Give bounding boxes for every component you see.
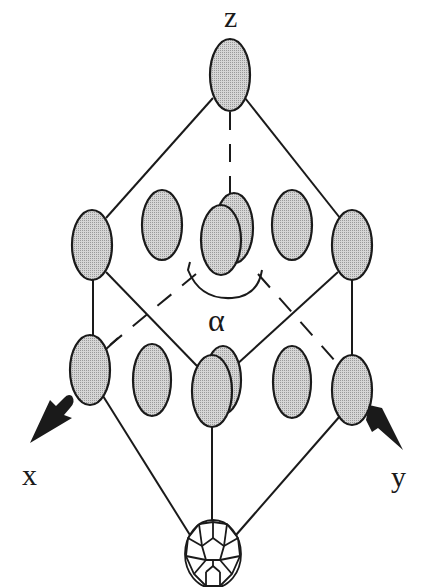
y-axis-arrow-icon — [366, 405, 403, 450]
hidden-edge-center-to-lower-left — [110, 274, 196, 345]
molecule-upper-left-vertex — [72, 210, 112, 280]
molecule-lower-mid-right — [273, 346, 311, 418]
molecule-lower-mid-left — [133, 344, 171, 416]
z-axis-label: z — [224, 2, 237, 32]
rhombohedral-lattice-diagram — [0, 0, 441, 587]
molecule-upper-mid-right — [272, 190, 312, 260]
x-axis-label: x — [22, 460, 37, 490]
molecule-lower-center-front — [192, 355, 232, 427]
c60-fullerene-icon — [185, 520, 241, 587]
y-axis-label: y — [391, 462, 406, 492]
angle-alpha-label: α — [208, 304, 225, 336]
edge-lower-right-to-c60 — [236, 416, 340, 535]
molecule-upper-center-front — [201, 205, 241, 275]
edge-lower-left-to-c60 — [103, 396, 190, 535]
molecules — [70, 39, 372, 427]
molecule-top-vertex — [210, 39, 250, 111]
molecule-upper-mid-left — [142, 190, 182, 260]
molecule-lower-right-vertex — [332, 355, 372, 425]
molecule-upper-right-vertex — [332, 210, 372, 280]
x-axis-arrow-icon — [30, 395, 74, 443]
molecule-lower-left-vertex — [70, 335, 110, 405]
